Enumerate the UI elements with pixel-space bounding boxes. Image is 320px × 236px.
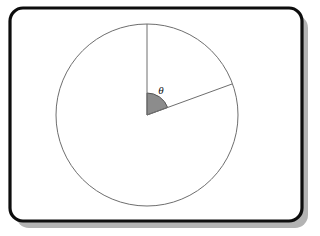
figure-canvas: θ xyxy=(0,0,320,236)
rounded-panel-frame xyxy=(10,8,302,221)
angle-diagram-svg: θ xyxy=(0,0,320,236)
theta-angle-label: θ xyxy=(158,84,164,96)
